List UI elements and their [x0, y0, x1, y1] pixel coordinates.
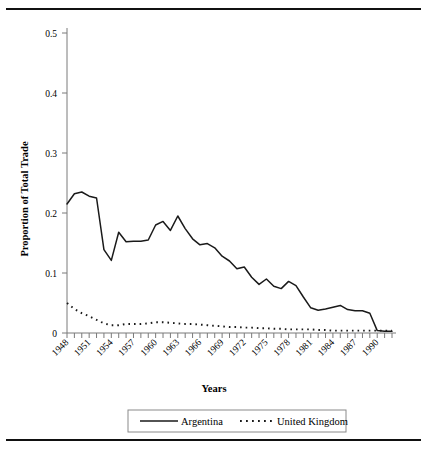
- x-tick-label: 1975: [249, 337, 270, 358]
- y-tick-label: 0.5: [45, 29, 57, 39]
- series-argentina: [67, 192, 392, 331]
- x-tick-label: 1960: [139, 337, 160, 358]
- x-tick-label: 1984: [316, 337, 337, 358]
- x-tick-label: 1981: [294, 337, 315, 358]
- y-tick-label: 0.2: [45, 209, 57, 219]
- x-tick-label: 1987: [338, 337, 359, 358]
- series-layer: [67, 192, 392, 331]
- y-axis-tick-marks: [62, 33, 67, 333]
- chart-figure: Proportion of Total Trade 00.10.20.30.40…: [0, 14, 427, 434]
- bottom-rule: [6, 439, 421, 441]
- x-tick-label: 1966: [183, 337, 204, 358]
- figure-page: Proportion of Total Trade 00.10.20.30.40…: [0, 0, 427, 453]
- y-tick-label: 0: [52, 329, 57, 339]
- x-tick-label: 1963: [161, 337, 182, 358]
- x-tick-label: 1990: [360, 337, 381, 358]
- x-tick-label: 1957: [116, 337, 137, 358]
- y-tick-label: 0.3: [45, 149, 57, 159]
- line-chart: Proportion of Total Trade 00.10.20.30.40…: [0, 14, 427, 434]
- x-axis-title: Years: [201, 383, 226, 394]
- x-tick-label: 1972: [227, 337, 248, 358]
- top-rule: [6, 8, 421, 10]
- y-axis-title: Proportion of Total Trade: [19, 141, 30, 257]
- x-axis-tick-labels: 1948195119541957196019631966196919721975…: [50, 337, 381, 358]
- y-tick-label: 0.1: [45, 269, 57, 279]
- x-tick-label: 1954: [94, 337, 115, 358]
- legend-label-united-kingdom: United Kingdom: [277, 416, 348, 427]
- x-tick-label: 1969: [205, 337, 226, 358]
- x-tick-label: 1948: [50, 337, 71, 358]
- x-axis-tick-marks: [67, 333, 392, 338]
- y-tick-label: 0.4: [45, 89, 57, 99]
- chart-legend: Argentina United Kingdom: [128, 410, 348, 432]
- x-tick-label: 1951: [72, 337, 93, 358]
- legend-label-argentina: Argentina: [181, 416, 223, 427]
- y-axis-tick-labels: 00.10.20.30.40.5: [45, 29, 57, 339]
- x-tick-label: 1978: [271, 337, 292, 358]
